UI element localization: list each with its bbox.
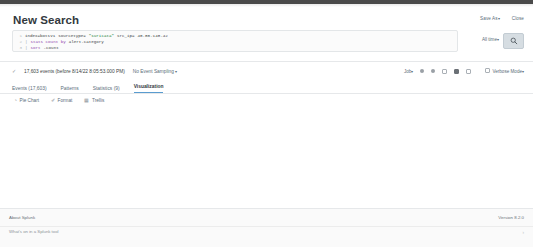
search-mode-label: Verbose Mode [492,69,522,74]
results-toolbar-right: Job▾ Verbose Mode▾ [404,68,524,74]
trellis-selector[interactable]: ▦Trellis [84,97,104,103]
results-toolbar: ✓ 17,603 events (before 8/14/22 8:05:53.… [12,68,177,74]
pause-icon[interactable] [420,69,424,73]
chevron-down-icon: ▾ [522,69,524,74]
about-link[interactable]: About Splunk [9,215,35,220]
format-icon: ✐ [51,97,55,103]
event-sampling-label: No Event Sampling [133,69,174,74]
query-line: 2|stats count byalert.category [17,40,104,44]
viz-option-label: Pie Chart [20,98,40,103]
stop-icon[interactable] [431,69,435,73]
splunk-search-page: New Search Save As▾ Close 1index=botsv1s… [0,0,533,247]
query-token: alert.category [69,40,104,44]
run-search-button[interactable] [503,33,524,49]
query-token: index=botsv1 [25,34,55,38]
query-token: stats count by [31,40,66,44]
tabs-underline [0,93,533,94]
footer-arrow-icon[interactable]: › [523,230,525,235]
query-token: "suricata" [89,34,114,38]
chevron-down-icon: ▾ [411,69,413,74]
page-title: New Search [13,14,79,26]
query-line-number: 1 [17,34,22,38]
chevron-down-icon: ▾ [497,37,499,42]
query-line-number: 2 [17,40,22,44]
time-range-label: All time [482,37,497,42]
top-actions: Save As▾ Close [480,16,524,21]
save-as-button[interactable]: Save As▾ [480,16,500,21]
query-line-number: 3 [17,46,22,50]
close-button[interactable]: Close [512,16,524,21]
search-mode-button[interactable]: Verbose Mode▾ [485,68,524,74]
query-line: 3|sort-count [17,46,59,50]
viz-option-label: Trellis [92,98,104,103]
footer-top-row: About Splunk Version 8.2.0 [0,209,533,227]
job-button[interactable]: Job▾ [404,69,413,74]
save-as-label: Save As [480,16,498,21]
visualization-toolbar: ◔Pie Chart✐Format▦Trellis [14,97,104,103]
page-footer: About Splunk Version 8.2.0 What's on in … [0,209,533,247]
event-count-label: 17,603 events (before 8/14/22 8:05:53.00… [24,69,125,74]
visualization-panel: Web Application Attack Detection of a Ne… [0,106,533,206]
time-range-picker[interactable]: All time▾ [482,37,499,42]
query-token: | [25,40,28,44]
footer-tagline: What's on in a Splunk tool [9,229,59,234]
query-token: 40.80.148.42 [138,34,168,38]
search-icon [510,37,518,45]
viz-option-label: Format [58,98,73,103]
query-token: sourcetype= [58,34,86,38]
chevron-down-icon: ▾ [175,69,177,74]
mode-icon [485,68,490,73]
chevron-down-icon: ▾ [498,16,500,21]
print-icon[interactable] [454,69,459,74]
pie-chart-icon: ◔ [14,97,17,103]
query-token: -count [44,46,59,50]
checkmark-icon: ✓ [12,68,16,74]
pie-chart-selector[interactable]: ◔Pie Chart [14,97,39,103]
format-selector[interactable]: ✐Format [51,97,72,103]
export-icon[interactable] [466,69,471,74]
version-label: Version 8.2.0 [498,215,524,220]
query-line: 1index=botsv1sourcetype="suricata"src_ip… [17,34,168,38]
app-chrome-shadow [0,4,533,7]
trellis-icon: ▦ [84,97,89,103]
query-token: src_ip= [117,34,135,38]
search-divider [0,61,533,62]
query-token: | [25,46,28,50]
query-token: sort [31,46,41,50]
search-query-input[interactable]: 1index=botsv1sourcetype="suricata"src_ip… [12,30,458,52]
share-icon[interactable] [442,69,447,74]
event-sampling-button[interactable]: No Event Sampling ▾ [133,69,177,74]
